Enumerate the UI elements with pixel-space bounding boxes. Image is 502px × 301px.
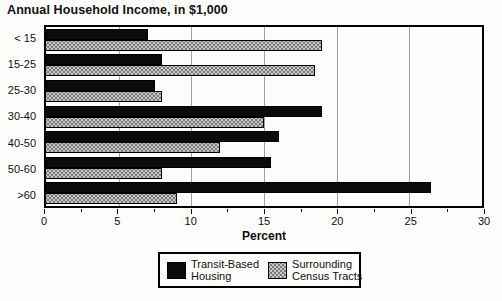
tick-25 bbox=[411, 209, 412, 214]
y-label-2: 15-25 bbox=[0, 51, 38, 77]
bar-transit-based-housing-4 bbox=[46, 106, 322, 117]
tick-20 bbox=[337, 209, 338, 214]
legend-label-line: Housing bbox=[191, 270, 231, 282]
tick-22.5 bbox=[374, 209, 375, 212]
tick-label-15: 15 bbox=[258, 215, 270, 227]
legend: Transit-Based Housing Surrounding Census… bbox=[158, 252, 361, 288]
tick-17.5 bbox=[301, 209, 302, 212]
bar-transit-based-housing-1 bbox=[46, 29, 148, 40]
tick-label-20: 20 bbox=[331, 215, 343, 227]
bar-row-3 bbox=[46, 78, 482, 104]
tick-12.5 bbox=[227, 209, 228, 212]
x-axis-title: Percent bbox=[44, 229, 484, 243]
tick-label-5: 5 bbox=[114, 215, 120, 227]
tick-7.5 bbox=[154, 209, 155, 212]
y-label-3: 25-30 bbox=[0, 77, 38, 103]
tick-label-25: 25 bbox=[405, 215, 417, 227]
bar-surrounding-census-tracts-5 bbox=[46, 142, 220, 153]
bar-surrounding-census-tracts-3 bbox=[46, 91, 162, 102]
tick-30 bbox=[484, 209, 485, 214]
y-label-7: >60 bbox=[0, 182, 38, 208]
black-swatch-icon bbox=[167, 262, 186, 279]
plot-area bbox=[44, 25, 484, 208]
bar-row-7 bbox=[46, 180, 482, 206]
legend-item-transit-based-housing: Transit-Based Housing bbox=[167, 258, 259, 282]
bar-transit-based-housing-2 bbox=[46, 54, 162, 65]
bar-row-5 bbox=[46, 129, 482, 155]
tick-27.5 bbox=[447, 209, 448, 212]
bar-surrounding-census-tracts-1 bbox=[46, 40, 322, 51]
tick-15 bbox=[264, 209, 265, 214]
bar-surrounding-census-tracts-7 bbox=[46, 193, 177, 204]
y-axis-labels: < 1515-2525-3030-4040-5050-60>60 bbox=[0, 25, 38, 208]
bar-surrounding-census-tracts-6 bbox=[46, 168, 162, 179]
bar-row-4 bbox=[46, 104, 482, 130]
tick-label-10: 10 bbox=[185, 215, 197, 227]
chart-title: Annual Household Income, in $1,000 bbox=[7, 3, 228, 17]
tick-label-0: 0 bbox=[41, 215, 47, 227]
bar-transit-based-housing-7 bbox=[46, 182, 431, 193]
bar-row-2 bbox=[46, 53, 482, 79]
y-label-5: 40-50 bbox=[0, 130, 38, 156]
legend-label-line: Transit-Based bbox=[191, 258, 259, 270]
gray-halftone-swatch-icon bbox=[268, 262, 287, 279]
bar-transit-based-housing-6 bbox=[46, 157, 271, 168]
y-label-6: 50-60 bbox=[0, 156, 38, 182]
tick-label-30: 30 bbox=[478, 215, 490, 227]
legend-item-surrounding-census-tracts: Surrounding Census Tracts bbox=[268, 258, 362, 282]
y-label-4: 30-40 bbox=[0, 103, 38, 129]
bar-surrounding-census-tracts-2 bbox=[46, 65, 315, 76]
bar-transit-based-housing-3 bbox=[46, 80, 155, 91]
bar-transit-based-housing-5 bbox=[46, 131, 279, 142]
bar-row-1 bbox=[46, 27, 482, 53]
tick-0 bbox=[44, 209, 45, 214]
tick-2.5 bbox=[81, 209, 82, 212]
tick-5 bbox=[117, 209, 118, 214]
y-label-1: < 15 bbox=[0, 25, 38, 51]
legend-label-line: Surrounding bbox=[292, 258, 352, 270]
bar-rows bbox=[46, 27, 482, 206]
bar-surrounding-census-tracts-4 bbox=[46, 117, 264, 128]
legend-label-line: Census Tracts bbox=[292, 270, 362, 282]
legend-label: Surrounding Census Tracts bbox=[292, 258, 362, 282]
bar-row-6 bbox=[46, 155, 482, 181]
legend-label: Transit-Based Housing bbox=[191, 258, 259, 282]
tick-10 bbox=[191, 209, 192, 214]
chart-page: Annual Household Income, in $1,000 < 151… bbox=[0, 0, 502, 301]
